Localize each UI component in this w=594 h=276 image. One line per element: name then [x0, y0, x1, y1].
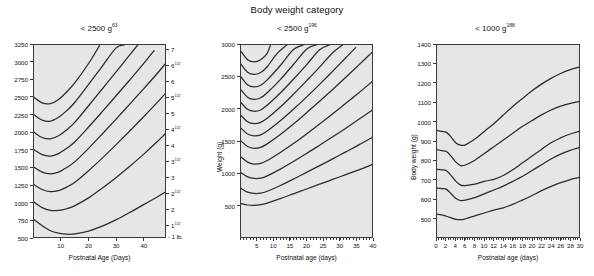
x-minor-tick [558, 238, 559, 240]
growth-curve [241, 45, 303, 87]
y-tick-mark [433, 102, 436, 103]
growth-curve [241, 110, 372, 178]
y-tick-mark [433, 44, 436, 45]
x-minor-tick [303, 238, 304, 240]
y-tick-label: 2250 [0, 111, 28, 118]
x-minor-tick [580, 238, 581, 240]
x-minor-tick [436, 238, 437, 240]
x-tick-label: 30 [113, 242, 120, 249]
y-tick-mark [433, 63, 436, 64]
panel-middle-y-label: Weight (g) [216, 142, 223, 172]
x-tick-label: 22 [538, 242, 545, 249]
x-minor-tick [517, 238, 518, 240]
y-tick-mark [30, 61, 33, 62]
x-minor-tick [457, 238, 458, 240]
pound-tick-mark [166, 161, 169, 162]
x-minor-tick [323, 238, 324, 240]
pound-tick-label: 7 [171, 46, 174, 53]
x-minor-tick [551, 238, 552, 240]
panel-left-pound-note: - 1 lb. [168, 234, 183, 240]
x-minor-tick [320, 238, 321, 240]
x-minor-tick [575, 238, 576, 240]
x-tick-label: 20 [85, 242, 92, 249]
y-tick-mark [30, 220, 33, 221]
y-tick-mark [237, 141, 240, 142]
x-minor-tick [356, 238, 357, 240]
x-minor-tick [498, 238, 499, 240]
x-minor-tick [479, 238, 480, 240]
x-minor-tick [243, 238, 244, 240]
y-tick-mark [30, 44, 33, 45]
x-minor-tick [570, 238, 571, 240]
y-tick-label: 1200 [396, 79, 431, 86]
x-tick-label: 30 [577, 242, 584, 249]
x-tick-label: 30 [336, 242, 343, 249]
x-minor-tick [326, 238, 327, 240]
x-minor-tick [343, 238, 344, 240]
x-minor-tick [541, 238, 542, 240]
x-minor-tick [563, 238, 564, 240]
pound-tick-label: 51/2 [171, 93, 181, 101]
panel-middle-curves [241, 45, 372, 237]
panel-right-curves [437, 45, 579, 237]
x-tick-label: 18 [519, 242, 526, 249]
y-tick-mark [30, 202, 33, 203]
panel-right: < 1000 g188 5006007008009001000110012001… [396, 22, 594, 276]
x-minor-tick [333, 238, 334, 240]
x-minor-tick [520, 238, 521, 240]
y-tick-mark [433, 179, 436, 180]
panel-left-curves [34, 45, 165, 237]
panel-right-title-text: < 1000 g [475, 24, 506, 33]
x-minor-tick [276, 238, 277, 240]
growth-curve [437, 67, 579, 145]
growth-curve [34, 46, 100, 104]
x-tick-label: 25 [320, 242, 327, 249]
x-minor-tick [296, 238, 297, 240]
x-minor-tick [336, 238, 337, 240]
x-tick-mark [143, 238, 144, 241]
x-minor-tick [477, 238, 478, 240]
y-tick-label: 2000 [198, 105, 235, 112]
panel-middle-title: < 2500 g196 [198, 22, 396, 33]
x-tick-label: 0 [434, 242, 437, 249]
pound-tick-label: 11/2 [171, 221, 181, 229]
x-minor-tick [525, 238, 526, 240]
panel-middle-plot-area [240, 44, 373, 238]
x-minor-tick [455, 238, 456, 240]
y-tick-label: 1300 [396, 60, 431, 67]
x-minor-tick [359, 238, 360, 240]
x-minor-tick [549, 238, 550, 240]
x-tick-label: 10 [57, 242, 64, 249]
y-tick-mark [433, 218, 436, 219]
y-tick-label: 1400 [396, 41, 431, 48]
x-tick-label: 2 [444, 242, 447, 249]
x-minor-tick [496, 238, 497, 240]
growth-curve [241, 165, 372, 206]
growth-curve [241, 45, 329, 111]
x-minor-tick [349, 238, 350, 240]
y-tick-label: 750 [0, 217, 28, 224]
y-tick-label: 500 [0, 235, 28, 242]
y-tick-label: 1750 [0, 146, 28, 153]
panel-right-plot-area [436, 44, 580, 238]
x-minor-tick [467, 238, 468, 240]
growth-curve [34, 64, 165, 174]
pound-tick-mark [166, 129, 169, 130]
y-tick-label: 2500 [198, 73, 235, 80]
y-tick-mark [30, 167, 33, 168]
pound-tick-label: 6 [171, 78, 174, 85]
panel-middle: < 2500 g196 50010001500200025003000 5101… [198, 22, 396, 276]
growth-curve [34, 94, 165, 192]
y-tick-label: 1100 [396, 99, 431, 106]
growth-curve [34, 134, 165, 211]
figure-title: Body weight category [0, 4, 594, 15]
pound-tick-mark [166, 177, 169, 178]
x-minor-tick [246, 238, 247, 240]
growth-curve [34, 45, 124, 121]
x-minor-tick [353, 238, 354, 240]
x-tick-label: 40 [140, 242, 147, 249]
x-minor-tick [472, 238, 473, 240]
x-minor-tick [438, 238, 439, 240]
x-minor-tick [491, 238, 492, 240]
x-minor-tick [263, 238, 264, 240]
